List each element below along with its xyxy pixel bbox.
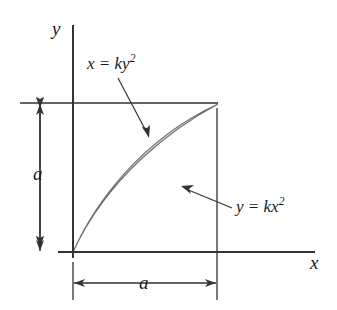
leader-arrowhead-y-equals-kx2	[181, 185, 194, 194]
curve-label-y-eq: = k	[244, 197, 272, 216]
leader-line-x-equals-ky2	[118, 78, 147, 133]
dimension-label-horizontal: a	[139, 272, 149, 294]
curve-label-x-exponent: 2	[130, 52, 136, 65]
curve-label-x-base: y	[122, 54, 130, 73]
dimension-label-vertical: a	[33, 163, 43, 185]
leader-line-y-equals-kx2	[186, 189, 232, 208]
shaded-region	[73, 104, 218, 252]
curve-label-x-eq: = k	[95, 54, 123, 73]
curve-label-x-equals-ky2: x = ky2	[87, 52, 135, 74]
curve-label-x-var: x	[87, 54, 95, 73]
figure-canvas: y x a a x = ky2 y = kx2	[0, 0, 337, 310]
curve-label-y-base: x	[271, 197, 279, 216]
curve-label-y-equals-kx2: y = kx2	[236, 195, 284, 217]
figure-drawing	[0, 0, 337, 310]
x-axis-label: x	[310, 252, 318, 274]
y-axis-label: y	[52, 18, 60, 40]
curve-label-y-exponent: 2	[279, 195, 285, 208]
curve-label-y-var: y	[236, 197, 244, 216]
